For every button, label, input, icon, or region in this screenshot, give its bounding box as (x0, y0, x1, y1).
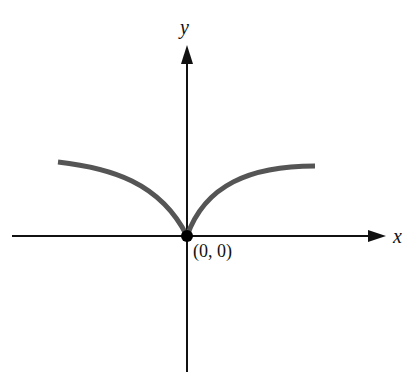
origin-label: (0, 0) (193, 241, 232, 262)
graph-canvas: x y (0, 0) (0, 0, 417, 384)
origin-point (181, 230, 193, 242)
y-axis-arrow-icon (181, 45, 193, 64)
x-axis-label: x (392, 225, 402, 247)
curve-left (58, 162, 187, 236)
x-axis-arrow-icon (368, 230, 386, 242)
curve-right (187, 166, 315, 236)
y-axis-label: y (178, 16, 189, 39)
